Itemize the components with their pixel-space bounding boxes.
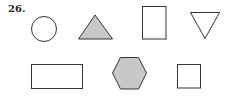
shaded-hexagon-shape [113,58,147,90]
square-shape [178,65,201,89]
shaded-triangle-shape [79,15,113,39]
tall-rectangle-shape [143,7,167,40]
wide-rectangle-shape [32,65,83,89]
circle-shape [32,17,57,42]
inverted-triangle-shape [191,13,220,39]
shapes-diagram [0,0,233,96]
